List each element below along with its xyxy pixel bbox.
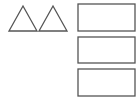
rectangle-2 bbox=[78, 37, 135, 63]
diagram-canvas bbox=[0, 0, 137, 98]
rectangle-3 bbox=[78, 69, 135, 96]
triangle-2 bbox=[39, 6, 67, 31]
triangle-1 bbox=[9, 6, 37, 31]
rectangle-1 bbox=[78, 4, 135, 31]
